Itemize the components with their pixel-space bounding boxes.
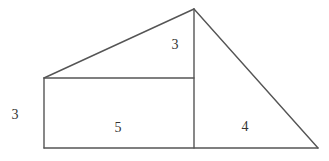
composite-figure-diagram: 3 3 5 4 [0,0,329,161]
label-top-triangle-height: 3 [172,37,179,52]
label-right-triangle-base: 4 [242,119,249,134]
label-rect-height: 3 [12,107,19,122]
label-rect-width: 5 [115,120,122,135]
right-triangle-hypotenuse [194,9,318,148]
